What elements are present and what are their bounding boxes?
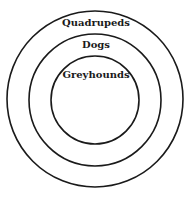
label-dogs: Dogs [82, 39, 110, 50]
circle-dogs [29, 34, 161, 166]
label-greyhounds: Greyhounds [62, 69, 129, 80]
circle-quadrupeds [7, 11, 183, 187]
euler-diagram: Quadrupeds Dogs Greyhounds [0, 0, 193, 200]
label-quadrupeds: Quadrupeds [62, 17, 130, 28]
